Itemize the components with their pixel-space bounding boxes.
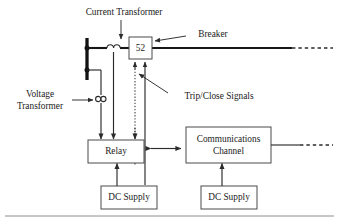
callout-current-transformer: Current Transformer <box>86 7 164 39</box>
voltage-transformer-label-line2: Transformer <box>17 101 64 111</box>
communications-channel-label-line2: Channel <box>213 146 244 156</box>
callout-breaker: Breaker <box>155 29 229 41</box>
current-transformer-label: Current Transformer <box>86 7 164 17</box>
dc-supply-comms-label: DC Supply <box>208 192 250 202</box>
relay-block[interactable]: Relay <box>88 140 144 163</box>
trip-close-signals-label: Trip/Close Signals <box>184 91 254 101</box>
breaker-label: 52 <box>136 43 146 53</box>
breaker-callout-label: Breaker <box>198 29 228 39</box>
breaker-block[interactable]: 52 <box>129 37 152 59</box>
one-line-diagram: 52 Relay Communications Channel <box>0 0 339 224</box>
dc-supply-relay-block[interactable]: DC Supply <box>101 164 157 210</box>
voltage-transformer-symbol <box>87 70 106 139</box>
communications-channel-label-line1: Communications <box>197 134 261 144</box>
dc-supply-comms-block[interactable]: DC Supply <box>201 164 257 210</box>
diagram-canvas: 52 Relay Communications Channel <box>0 0 339 224</box>
current-transformer-symbol <box>107 45 120 48</box>
callout-voltage-transformer: Voltage Transformer <box>17 89 93 111</box>
dc-supply-relay-label: DC Supply <box>108 192 150 202</box>
bus-bar <box>85 38 90 80</box>
voltage-transformer-label-line1: Voltage <box>26 89 54 99</box>
communications-channel-block[interactable]: Communications Channel <box>186 127 271 163</box>
relay-label: Relay <box>105 146 127 156</box>
callout-trip-close-signals: Trip/Close Signals <box>139 74 254 101</box>
communications-channel-box[interactable] <box>186 127 271 163</box>
